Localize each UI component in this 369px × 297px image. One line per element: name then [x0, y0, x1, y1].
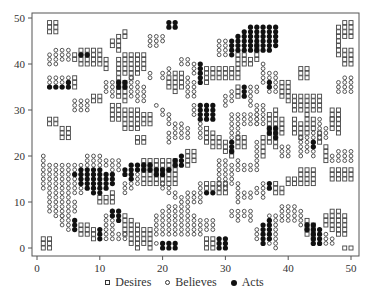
desires-point — [217, 191, 221, 195]
believes-point — [67, 209, 71, 213]
believes-point — [311, 150, 315, 154]
acts-point — [229, 144, 234, 149]
acts-point — [198, 66, 203, 71]
believes-point — [299, 140, 303, 144]
believes-point — [324, 237, 328, 241]
acts-point — [85, 181, 90, 186]
believes-point — [54, 173, 58, 177]
desires-point — [336, 25, 340, 29]
believes-point — [60, 81, 64, 85]
acts-point — [242, 84, 247, 89]
believes-point — [337, 90, 341, 94]
acts-point — [254, 38, 259, 43]
desires-point — [211, 136, 215, 140]
acts-point — [78, 52, 83, 57]
believes-point — [299, 219, 303, 223]
believes-point — [110, 223, 114, 227]
desires-point — [249, 57, 253, 61]
believes-point — [110, 90, 114, 94]
desires-point — [135, 232, 139, 236]
believes-point — [180, 136, 184, 140]
desires-point — [98, 53, 102, 57]
believes-point — [123, 186, 127, 190]
desires-point — [142, 53, 146, 57]
acts-point — [198, 71, 203, 76]
believes-point — [198, 219, 202, 223]
desires-point — [343, 57, 347, 61]
desires-point — [123, 214, 127, 218]
believes-point — [54, 191, 58, 195]
believes-point — [54, 196, 58, 200]
believes-point — [186, 196, 190, 200]
believes-point — [224, 53, 228, 57]
desires-point — [129, 126, 133, 130]
desires-point — [324, 223, 328, 227]
believes-point — [249, 219, 253, 223]
believes-point — [48, 191, 52, 195]
acts-point — [204, 112, 209, 117]
believes-point — [54, 205, 58, 209]
desires-point — [311, 172, 315, 176]
desires-point — [242, 53, 246, 57]
believes-point — [192, 81, 196, 85]
desires-point — [280, 191, 284, 195]
desires-point — [236, 71, 240, 75]
believes-point — [48, 53, 52, 57]
desires-point — [261, 154, 265, 158]
believes-point — [129, 94, 133, 98]
desires-point — [211, 237, 215, 241]
desires-point — [305, 131, 309, 135]
desires-point — [330, 172, 334, 176]
believes-point — [255, 237, 259, 241]
believes-point — [192, 191, 196, 195]
believes-point — [255, 191, 259, 195]
desires-point — [66, 131, 70, 135]
desires-point — [223, 191, 227, 195]
desires-point — [330, 214, 334, 218]
desires-point — [117, 44, 121, 48]
believes-point — [73, 177, 77, 181]
desires-point — [242, 62, 246, 66]
believes-point — [349, 81, 353, 85]
believes-point — [198, 196, 202, 200]
believes-point — [224, 177, 228, 181]
desires-point — [154, 159, 158, 163]
believes-point — [198, 136, 202, 140]
believes-point — [343, 85, 347, 89]
believes-point — [41, 168, 45, 172]
desires-point — [311, 177, 315, 181]
desires-point — [123, 228, 127, 232]
believes-point — [343, 76, 347, 80]
desires-point — [211, 71, 215, 75]
desires-point — [343, 228, 347, 232]
acts-point — [235, 43, 240, 48]
believes-point — [186, 58, 190, 62]
believes-point — [249, 191, 253, 195]
acts-point — [66, 84, 71, 89]
believes-point — [236, 200, 240, 204]
desires-point — [123, 94, 127, 98]
believes-point — [60, 219, 64, 223]
believes-point — [67, 163, 71, 167]
desires-point — [117, 94, 121, 98]
acts-point — [273, 38, 278, 43]
acts-point — [198, 61, 203, 66]
believes-point — [54, 186, 58, 190]
believes-point — [48, 182, 52, 186]
believes-point — [324, 126, 328, 130]
acts-point — [60, 84, 65, 89]
desires-point — [123, 62, 127, 66]
believes-point — [67, 186, 71, 190]
acts-point — [85, 186, 90, 191]
acts-point — [248, 48, 253, 53]
believes-point — [217, 182, 221, 186]
believes-point — [305, 140, 309, 144]
believes-point — [261, 71, 265, 75]
desires-point — [142, 57, 146, 61]
desires-point — [305, 122, 309, 126]
legend-item-acts: Acts — [231, 275, 264, 290]
believes-point — [173, 219, 177, 223]
acts-point — [210, 107, 215, 112]
y-tick-label: 30 — [14, 104, 26, 116]
believes-point — [104, 219, 108, 223]
